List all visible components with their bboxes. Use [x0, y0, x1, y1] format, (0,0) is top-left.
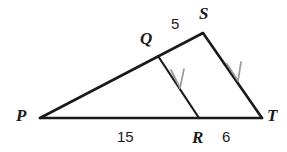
measure-label-qs: 5 — [171, 16, 179, 31]
segment-PS — [40, 33, 203, 118]
vertex-label-q: Q — [140, 30, 152, 47]
vertex-label-s: S — [199, 5, 208, 22]
vertex-label-p: P — [16, 107, 26, 124]
measure-label-pr: 15 — [117, 129, 134, 144]
measure-label-rt: 6 — [222, 129, 230, 144]
geometry-figure: P Q R S T 5 15 6 — [0, 0, 287, 152]
vertex-label-t: T — [267, 107, 277, 124]
triangle-diagram-svg — [0, 0, 287, 152]
vertex-label-r: R — [192, 129, 203, 146]
segment-QR — [158, 56, 199, 118]
segment-ST — [203, 33, 262, 118]
